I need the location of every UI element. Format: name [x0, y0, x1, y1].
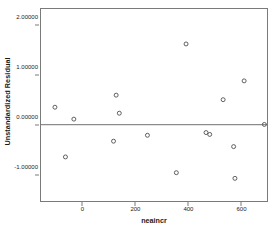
- data-point: [174, 171, 178, 175]
- y-axis-tick-label: 1.00000: [12, 64, 38, 70]
- x-axis-tick-mark: [135, 202, 136, 206]
- data-point: [184, 42, 188, 46]
- x-axis-tick-label: 600: [236, 206, 246, 212]
- scatter-plot-chart: Unstandardized Residual 2.000001.000000.…: [0, 0, 279, 232]
- x-axis-tick-mark: [241, 202, 242, 206]
- x-axis-tick-mark: [82, 202, 83, 206]
- data-point: [112, 139, 116, 143]
- y-axis-tick-mark: [35, 25, 39, 26]
- x-axis-tick-label: 200: [130, 206, 140, 212]
- data-point: [53, 105, 57, 109]
- x-axis-tick-mark: [188, 202, 189, 206]
- data-points-layer: [41, 9, 267, 201]
- data-point: [117, 111, 121, 115]
- data-point: [145, 133, 149, 137]
- plot-area: [40, 8, 268, 202]
- x-axis-tick-label: 400: [183, 206, 193, 212]
- x-axis-tick-label: 0: [81, 206, 84, 212]
- data-point: [114, 93, 118, 97]
- data-point: [233, 176, 237, 180]
- data-point: [221, 98, 225, 102]
- y-axis-tick-label: 2.00000: [12, 14, 38, 20]
- data-point: [208, 132, 212, 136]
- y-axis-title-label: Unstandardized Residual: [3, 57, 12, 145]
- y-axis-tick-labels: 2.000001.000000.00000-1.00000: [12, 0, 38, 202]
- data-point: [232, 145, 236, 149]
- y-axis-tick-mark: [35, 75, 39, 76]
- data-point: [63, 155, 67, 159]
- y-axis-tick-mark: [35, 174, 39, 175]
- data-point: [242, 79, 246, 83]
- y-axis-tick-label: 0.00000: [12, 114, 38, 120]
- y-axis-tick-label: -1.00000: [12, 164, 38, 170]
- x-axis-tick-labels: 0200400600: [40, 203, 268, 217]
- y-axis-tick-mark: [35, 124, 39, 125]
- data-point: [72, 117, 76, 121]
- x-axis-title: neaincr: [40, 216, 268, 225]
